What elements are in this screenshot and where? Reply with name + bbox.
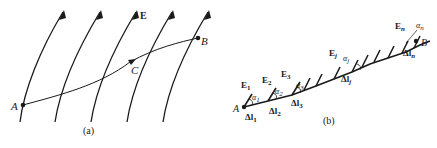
point-b-dot [196,36,201,41]
diagram-canvas: A B C E (a) [0,0,437,148]
label-point-c: C [131,64,139,76]
arrow-head-icon [132,10,139,20]
label-dln: Δln [403,48,415,60]
label-e2: E2 [262,75,272,87]
field-lines [20,12,208,122]
caption-b: (b) [323,115,335,127]
label-dl3: Δl3 [291,98,303,110]
label-point-b: B [421,37,427,48]
point-a-dot [242,105,246,109]
label-point-a: A [10,100,18,112]
field-arrowheads [59,10,211,20]
label-point-a: A [232,103,240,114]
label-alphan: αn [416,21,424,32]
field-line-3 [91,12,136,122]
label-alpha1: α1 [252,93,260,104]
label-e1: E1 [241,80,251,92]
label-field-e: E [140,10,147,21]
label-en: En [395,21,405,33]
arrow-head-icon [204,10,211,20]
field-line-2 [55,12,100,122]
arrow-head-icon [59,10,66,20]
field-vectors [244,36,420,107]
label-dl2: Δl2 [269,106,281,118]
label-alphaj: αj [343,54,349,65]
label-e3: E3 [281,69,291,81]
panel-a: A B C E (a) [10,10,211,137]
label-dl1: Δl1 [245,112,257,124]
caption-a: (a) [83,125,94,137]
field-line-1 [20,12,63,122]
field-line-5 [163,12,208,122]
label-ej: Ej [329,48,337,60]
label-dlj: Δlj [341,74,351,86]
arrow-head-icon [96,10,103,20]
point-b-dot [414,39,418,43]
panel-b: A B E1 E2 E3 Ej En α1 α2 α3 αj αn Δl1 Δl… [232,21,430,127]
path-acb [23,38,198,105]
label-alpha3: α3 [296,81,304,92]
arrow-head-icon [168,10,175,20]
point-a-dot [21,103,26,108]
label-point-b: B [201,35,208,47]
